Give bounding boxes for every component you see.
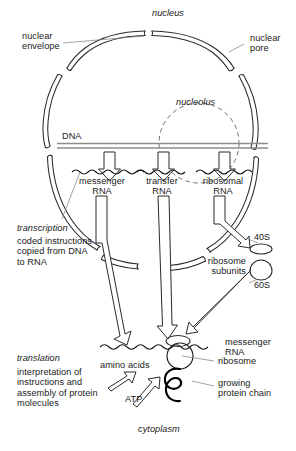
transfer-rna-export-arrow-icon [157, 196, 178, 339]
subunit-60s-icon [250, 260, 272, 280]
growing-protein-chain-icon [165, 369, 181, 402]
label-dna: DNA [62, 131, 82, 141]
label-cytoplasm: cytoplasm [138, 424, 180, 434]
label-ribosomal-rna: ribosomal RNA [194, 176, 252, 197]
leader-ribosome [182, 356, 214, 361]
label-messenger-rna-cytoplasm: messenger RNA [225, 337, 271, 358]
nuclear-envelope-icon [43, 31, 259, 271]
amino-acids-arrow-icon [108, 372, 136, 391]
label-translation-body: interpretation of instructions and assem… [17, 367, 98, 409]
leader-nuclear-envelope [63, 36, 144, 43]
label-subunit-40s: 40S [254, 232, 270, 242]
leader-nuclear-pore [229, 44, 244, 52]
protein-synthesis-diagram: .stroke { fill:none; stroke:#2b2b2b; str… [0, 0, 296, 451]
label-growing-protein-chain: growing protein chain [218, 378, 271, 399]
cytoplasm-messenger-rna-strand-icon [100, 345, 208, 350]
label-ribosome-subunits: ribosome subunits [184, 256, 246, 277]
label-ribosome: ribosome [218, 356, 256, 366]
label-transcription-title: transcription [17, 223, 68, 233]
label-nucleus: nucleus [152, 8, 184, 18]
leader-growing-protein-chain [192, 381, 214, 386]
label-messenger-rna-nucleus: messenger RNA [74, 176, 130, 197]
label-nuclear-pore: nuclear pore [250, 33, 280, 54]
label-subunit-60s: 60S [254, 280, 270, 290]
label-nuclear-envelope: nuclear envelope [22, 31, 60, 52]
label-translation-title: translation [17, 353, 60, 363]
label-atp: ATP [125, 394, 142, 404]
subunit-40s-icon [250, 244, 272, 254]
dna-strand-icon [57, 144, 268, 149]
messenger-rna-export-arrow-icon [96, 196, 131, 345]
label-nucleolus: nucleolus [176, 97, 215, 107]
label-transfer-rna: transfer RNA [136, 176, 188, 197]
label-amino-acids: amino acids [100, 360, 150, 370]
ribosome-assembly-arrow-icon [186, 270, 251, 334]
label-transcription-body: coded instructions copied from DNA to RN… [17, 236, 92, 267]
